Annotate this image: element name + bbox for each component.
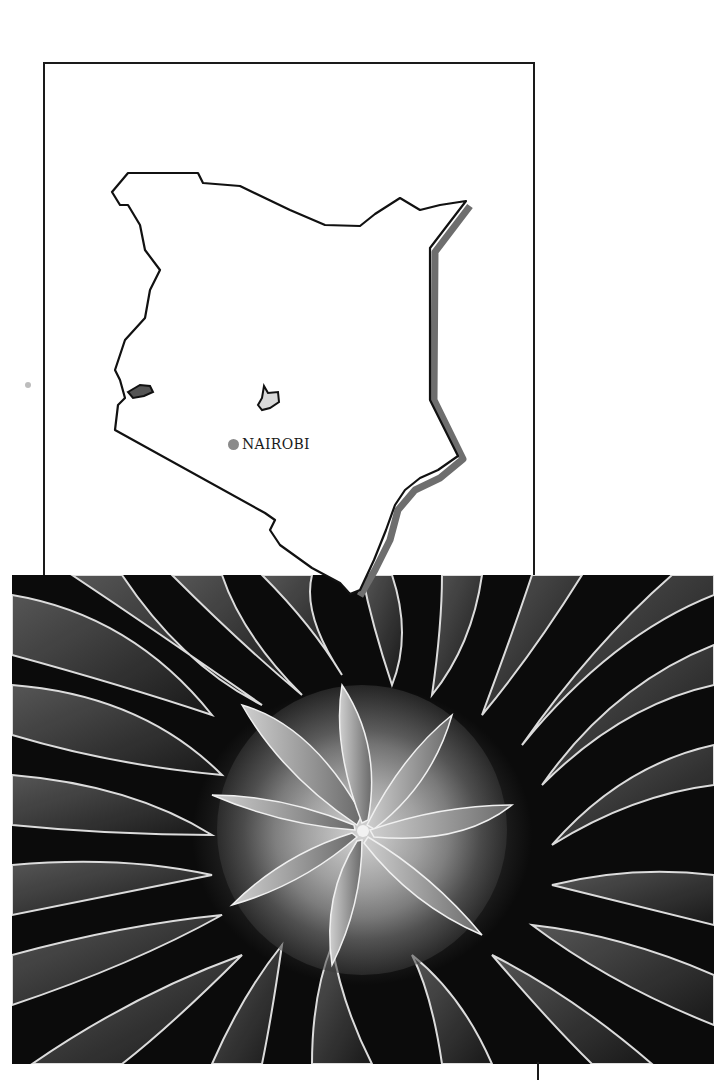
lobelia-photo bbox=[12, 575, 714, 1064]
frame-extension-line bbox=[537, 1062, 539, 1080]
city-name: NAIROBI bbox=[242, 436, 310, 452]
print-speck bbox=[25, 382, 31, 388]
map-frame bbox=[43, 62, 535, 622]
city-dot-icon bbox=[228, 439, 239, 450]
photo-leaves bbox=[12, 575, 714, 1064]
city-label-nairobi: NAIROBI bbox=[228, 436, 310, 452]
